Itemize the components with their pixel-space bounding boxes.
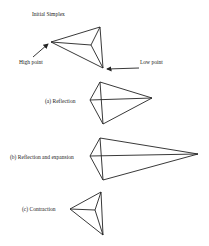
expansion-label: (b) Reflection and expansion [10,154,74,161]
contraction-shape [70,192,103,235]
high-point-annotation: High point [19,44,48,65]
reflection-shape [90,82,152,124]
contraction-label: (c) Contraction [22,206,56,213]
low-point-label: Low point [140,59,163,65]
low-point-arrow-icon [107,68,139,69]
high-point-arrow-icon [33,44,48,57]
initial-simplex-shape [51,27,103,68]
simplex-diagram: Initial Simplex High point Low point (a)… [0,0,209,246]
low-point-annotation: Low point [107,59,163,69]
initial-simplex-title: Initial Simplex [32,11,65,17]
high-point-label: High point [19,59,43,65]
reflection-label: (a) Reflection [45,98,76,105]
expansion-shape [90,138,198,180]
